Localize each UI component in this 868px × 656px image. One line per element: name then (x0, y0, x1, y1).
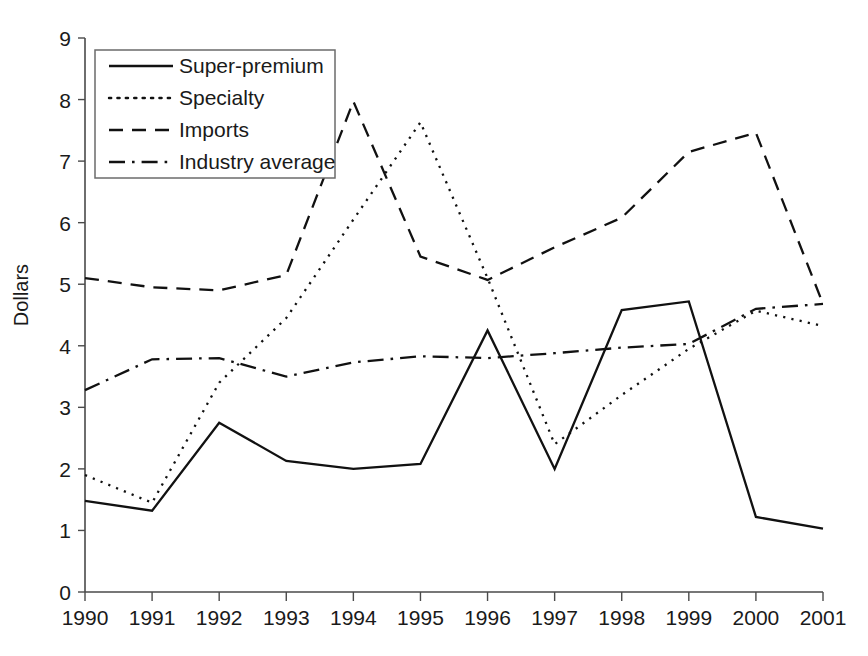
x-tick-label: 1994 (330, 606, 377, 629)
x-tick-label: 2001 (800, 606, 847, 629)
series-line-super-premium (85, 301, 823, 528)
x-tick-label: 1993 (263, 606, 310, 629)
x-tick-label: 1990 (62, 606, 109, 629)
y-tick-label: 0 (59, 581, 71, 604)
legend-label-imports: Imports (179, 118, 249, 141)
chart-canvas: 0123456789199019911992199319941995199619… (0, 0, 868, 656)
chart-legend: Super-premiumSpecialtyImportsIndustry av… (95, 50, 335, 178)
x-tick-label: 1996 (464, 606, 511, 629)
x-tick-label: 1999 (665, 606, 712, 629)
y-tick-label: 7 (59, 150, 71, 173)
y-tick-label: 2 (59, 458, 71, 481)
series-line-specialty (85, 122, 823, 502)
y-tick-label: 9 (59, 27, 71, 50)
y-tick-label: 8 (59, 89, 71, 112)
y-tick-label: 4 (59, 335, 71, 358)
y-tick-label: 1 (59, 519, 71, 542)
legend-label-industry-average: Industry average (179, 150, 335, 173)
y-axis-title: Dollars (10, 264, 32, 326)
x-tick-label: 1991 (129, 606, 176, 629)
x-tick-label: 1995 (397, 606, 444, 629)
x-tick-label: 1998 (598, 606, 645, 629)
legend-label-super-premium: Super-premium (179, 54, 324, 77)
x-tick-label: 2000 (733, 606, 780, 629)
legend-label-specialty: Specialty (179, 86, 265, 109)
x-tick-label: 1992 (196, 606, 243, 629)
x-tick-label: 1997 (531, 606, 578, 629)
line-chart: 0123456789199019911992199319941995199619… (0, 0, 868, 656)
y-tick-label: 5 (59, 273, 71, 296)
y-tick-label: 6 (59, 212, 71, 235)
y-tick-label: 3 (59, 396, 71, 419)
